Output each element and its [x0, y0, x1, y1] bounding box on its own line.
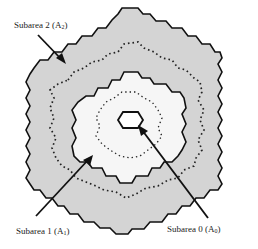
label-subarea-1-close: ) — [66, 226, 69, 236]
subarea-0-hexagon — [118, 112, 143, 128]
label-subarea-0: Subarea 0 (A0) — [167, 224, 220, 236]
label-subarea-2: Subarea 2 (A2) — [14, 20, 67, 32]
subarea-diagram — [0, 0, 258, 249]
label-subarea-1-text: Subarea 1 (A — [16, 226, 63, 236]
label-subarea-0-text: Subarea 0 (A — [167, 224, 214, 234]
label-subarea-2-close: ) — [64, 20, 67, 30]
label-subarea-0-close: ) — [217, 224, 220, 234]
label-subarea-1: Subarea 1 (A1) — [16, 226, 69, 238]
label-subarea-2-text: Subarea 2 (A — [14, 20, 61, 30]
